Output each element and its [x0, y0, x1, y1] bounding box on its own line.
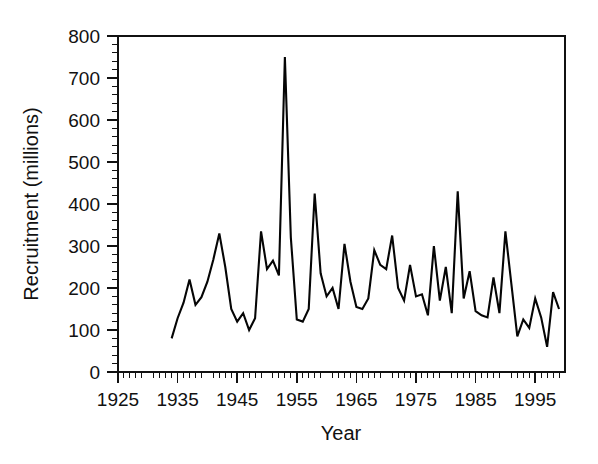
recruitment-series-line [172, 57, 559, 347]
x-axis-title: Year [321, 422, 362, 444]
y-tick-label: 0 [89, 362, 100, 383]
x-tick-label: 1925 [97, 389, 139, 410]
y-tick-label: 600 [68, 110, 100, 131]
recruitment-line-chart: 0100200300400500600700800 19251935194519… [0, 0, 598, 464]
x-axis-tick-labels: 19251935194519551965197519851995 [97, 389, 556, 410]
x-tick-label: 1995 [514, 389, 556, 410]
x-tick-label: 1985 [454, 389, 496, 410]
y-tick-label: 100 [68, 320, 100, 341]
x-tick-label: 1945 [216, 389, 258, 410]
y-axis-title: Recruitment (millions) [20, 107, 42, 300]
y-tick-label: 300 [68, 236, 100, 257]
x-axis-major-ticks [118, 372, 535, 383]
plot-frame [118, 36, 565, 372]
y-tick-label: 200 [68, 278, 100, 299]
y-axis-tick-labels: 0100200300400500600700800 [68, 26, 100, 383]
y-tick-label: 800 [68, 26, 100, 47]
x-tick-label: 1935 [156, 389, 198, 410]
chart-figure: 0100200300400500600700800 19251935194519… [0, 0, 598, 464]
y-tick-label: 400 [68, 194, 100, 215]
x-tick-label: 1975 [395, 389, 437, 410]
x-tick-label: 1955 [276, 389, 318, 410]
x-tick-label: 1965 [335, 389, 377, 410]
y-tick-label: 700 [68, 68, 100, 89]
y-tick-label: 500 [68, 152, 100, 173]
